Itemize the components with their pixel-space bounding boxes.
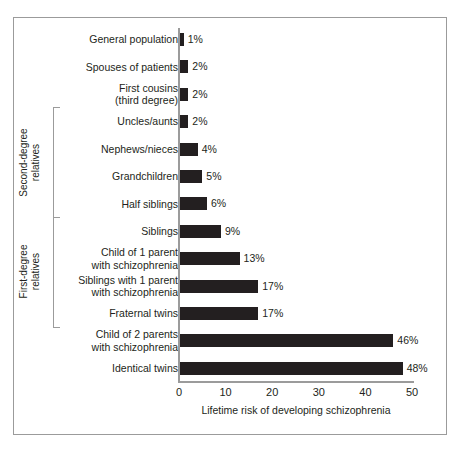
- bar-row: Identical twins48%: [0, 355, 461, 382]
- category-label: Uncles/aunts: [18, 115, 178, 127]
- category-label: Grandchildren: [18, 170, 178, 182]
- x-tick-label: 40: [353, 386, 377, 399]
- x-tick-label: 20: [260, 386, 284, 399]
- bar: [179, 252, 240, 265]
- x-tick-label: 50: [400, 386, 424, 399]
- x-axis-title: Lifetime risk of developing schizophreni…: [178, 404, 414, 416]
- category-label: Siblings: [18, 225, 178, 237]
- bar-value-label: 48%: [407, 362, 428, 375]
- x-tick-label: 0: [167, 386, 191, 399]
- bar-row: First cousins (third degree)2%: [0, 81, 461, 108]
- category-label: Fraternal twins: [18, 307, 178, 319]
- x-axis-line: [178, 381, 414, 383]
- bar-row: Spouses of patients2%: [0, 53, 461, 80]
- category-label: Spouses of patients: [18, 61, 178, 73]
- bar-row: Fraternal twins17%: [0, 300, 461, 327]
- category-label: Siblings with 1 parent with schizophreni…: [18, 274, 178, 299]
- bar-value-label: 9%: [225, 225, 240, 238]
- bar-row: General population1%: [0, 26, 461, 53]
- bar-value-label: 4%: [202, 143, 217, 156]
- bar-value-label: 17%: [262, 280, 283, 293]
- bar: [179, 60, 188, 73]
- bar: [179, 362, 403, 375]
- bar-value-label: 2%: [192, 88, 207, 101]
- group-bracket: [53, 217, 60, 328]
- bar-row: Nephews/nieces4%: [0, 136, 461, 163]
- x-tick-label: 10: [214, 386, 238, 399]
- group-bracket: [53, 107, 60, 218]
- category-label: Identical twins: [18, 362, 178, 374]
- bar-value-label: 13%: [244, 252, 265, 265]
- group-bracket-label: First-degree relatives: [19, 216, 42, 327]
- bar-chart-plot-area: General population1%Spouses of patients2…: [0, 0, 461, 452]
- bar-row: Uncles/aunts2%: [0, 108, 461, 135]
- bar-value-label: 2%: [192, 115, 207, 128]
- bar: [179, 143, 198, 156]
- y-axis-line: [178, 28, 180, 381]
- category-label: First cousins (third degree): [18, 82, 178, 107]
- bar: [179, 334, 393, 347]
- bar-row: Siblings9%: [0, 218, 461, 245]
- bar-row: Child of 1 parent with schizophrenia13%: [0, 245, 461, 272]
- bar-row: Half siblings6%: [0, 190, 461, 217]
- bar: [179, 280, 258, 293]
- group-bracket-label: Second-degree relatives: [19, 107, 42, 218]
- category-label: Half siblings: [18, 198, 178, 210]
- category-label: Nephews/nieces: [18, 143, 178, 155]
- bar-value-label: 2%: [192, 60, 207, 73]
- category-label: General population: [18, 33, 178, 45]
- bar: [179, 197, 207, 210]
- bar-row: Siblings with 1 parent with schizophreni…: [0, 273, 461, 300]
- bar: [179, 307, 258, 320]
- bar-value-label: 6%: [211, 197, 226, 210]
- bar-value-label: 17%: [262, 307, 283, 320]
- x-tick-label: 30: [307, 386, 331, 399]
- bar: [179, 115, 188, 128]
- category-label: Child of 2 parents with schizophrenia: [18, 328, 178, 353]
- bar: [179, 225, 221, 238]
- figure: General population1%Spouses of patients2…: [0, 0, 461, 452]
- bar-row: Child of 2 parents with schizophrenia46%: [0, 327, 461, 354]
- category-label: Child of 1 parent with schizophrenia: [18, 246, 178, 271]
- bar: [179, 88, 188, 101]
- bar-value-label: 46%: [397, 334, 418, 347]
- bar-row: Grandchildren5%: [0, 163, 461, 190]
- bar-value-label: 1%: [188, 33, 203, 46]
- bar: [179, 170, 202, 183]
- bar-value-label: 5%: [206, 170, 221, 183]
